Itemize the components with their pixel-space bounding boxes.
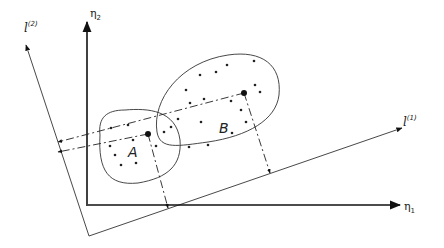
data-point: [110, 127, 113, 130]
data-point: [199, 74, 202, 77]
projection-line: [244, 93, 270, 173]
data-point: [230, 100, 233, 103]
data-point: [132, 139, 135, 142]
l2-axis-label: l(2): [24, 20, 38, 35]
discriminant-projection-diagram: A B η2 η1 l(1) l(2): [0, 0, 444, 248]
data-point: [231, 132, 234, 135]
data-point: [245, 121, 248, 124]
cluster-a-centroid: [145, 131, 151, 137]
data-point: [127, 124, 130, 127]
data-point: [215, 71, 218, 74]
data-point: [163, 131, 166, 134]
data-point: [177, 118, 180, 121]
data-point: [109, 145, 112, 148]
data-point: [114, 154, 117, 157]
cluster-b-centroid: [241, 90, 247, 96]
projection-lines: [58, 93, 270, 208]
data-point: [188, 146, 191, 149]
l2-axis: [26, 45, 89, 236]
data-point: [170, 126, 173, 129]
data-point: [120, 164, 123, 167]
cluster-a-label: A: [127, 144, 138, 160]
cluster-b-label: B: [219, 120, 229, 136]
eta2-axis-label: η2: [90, 7, 101, 22]
data-point: [155, 145, 158, 148]
data-point: [207, 144, 210, 147]
projection-line: [148, 134, 168, 208]
data-point: [203, 98, 206, 101]
data-point: [185, 89, 188, 92]
eta1-axis-label: η1: [404, 200, 415, 215]
projection-line: [58, 93, 244, 142]
data-point: [226, 64, 229, 67]
data-point: [135, 162, 138, 165]
cluster-b-boundary: [156, 54, 279, 145]
data-point: [254, 84, 257, 87]
data-point: [259, 91, 262, 94]
data-point: [240, 109, 243, 112]
data-point: [189, 102, 192, 105]
data-point: [253, 60, 256, 63]
l1-axis-label: l(1): [403, 114, 417, 129]
data-point: [200, 121, 203, 124]
